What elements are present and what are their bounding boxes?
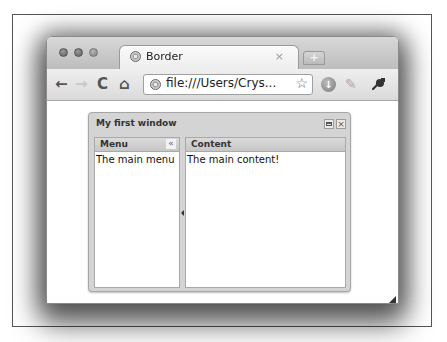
content-panel-body: The main content! [187,154,279,165]
zoom-window-button[interactable] [89,48,98,57]
resize-grip-icon[interactable] [389,296,396,303]
content-panel-header: Content [186,138,345,152]
wrench-menu-icon[interactable] [371,77,386,92]
content-panel: Content The main content! [185,137,346,288]
home-icon[interactable]: ⌂ [119,75,130,93]
reload-icon[interactable]: C [97,75,108,93]
my-first-window[interactable]: My first window × Menu « The main menu C… [88,112,351,292]
maximize-icon[interactable] [324,119,334,129]
address-text: file:///Users/Crys... [166,76,276,90]
bookmark-star-icon[interactable]: ☆ [295,75,308,91]
collapse-arrow-icon[interactable] [181,210,184,216]
download-extension-icon[interactable]: ↓ [321,77,336,92]
globe-icon [130,51,141,62]
menu-panel-header: Menu « [95,138,179,152]
content-panel-title: Content [191,139,231,149]
window-header[interactable]: My first window × [89,113,350,135]
new-tab-button[interactable]: + [303,51,325,65]
forward-arrow-icon[interactable]: → [75,75,88,93]
close-icon[interactable]: × [336,119,346,129]
window-title: My first window [96,118,177,128]
globe-icon [150,79,161,90]
address-bar[interactable]: file:///Users/Crys... ☆ [143,74,313,95]
menu-panel-title: Menu [100,139,128,149]
menu-panel: Menu « The main menu [94,137,180,288]
browser-titlebar: Border × + [47,37,398,69]
back-arrow-icon[interactable]: ← [55,75,68,93]
browser-toolbar: ← → C ⌂ file:///Users/Crys... ☆ ↓ ✎ [47,69,398,101]
menu-panel-body: The main menu [96,154,175,165]
tab-border[interactable]: Border × [119,45,299,69]
minimize-window-button[interactable] [74,48,83,57]
tab-close-icon[interactable]: × [275,50,284,63]
collapse-left-icon[interactable]: « [166,139,176,149]
pen-extension-icon[interactable]: ✎ [345,77,360,92]
wrench-icon [371,77,386,92]
tab-title: Border [146,50,183,63]
close-window-button[interactable] [59,48,68,57]
